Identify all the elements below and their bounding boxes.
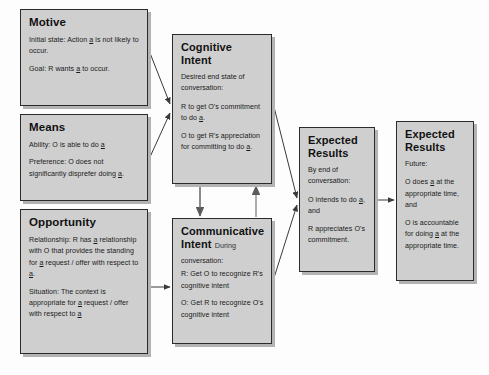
node-expected-results-future-line-2: O is accountable for doing a at the appr… <box>405 218 466 252</box>
node-opportunity-line-2: Situation: The context is appropriate fo… <box>29 287 140 321</box>
node-cognitive-intent-lead: Desired end state of conversation: <box>181 72 264 95</box>
diagram-canvas: Motive Initial state: Action a is not li… <box>0 0 489 375</box>
node-expected-results-conversation-line-1: O intends to do a, and <box>308 195 367 218</box>
node-means-title: Means <box>29 121 140 135</box>
node-motive-title: Motive <box>29 16 140 30</box>
node-opportunity[interactable]: Opportunity Relationship: R has a relati… <box>20 209 148 354</box>
arrow-cognitive-intent-to-expected-results <box>273 103 297 198</box>
node-expected-results-conversation[interactable]: Expected Results By end of conversation:… <box>299 127 375 272</box>
node-communicative-intent-title-note: During <box>215 241 236 250</box>
node-expected-results-conversation-line-2: R appreciates O's commitment. <box>308 224 367 247</box>
node-opportunity-title: Opportunity <box>29 216 140 230</box>
node-expected-results-future-lead: Future: <box>405 159 466 170</box>
node-communicative-intent-line-1: R: Get O to recognize R's cognitive inte… <box>181 269 264 292</box>
arrow-communicative-intent-to-expected-results <box>273 205 297 281</box>
node-cognitive-intent-line-2: O to get R's appreciation for committing… <box>181 131 264 154</box>
node-motive[interactable]: Motive Initial state: Action a is not li… <box>20 9 148 106</box>
node-expected-results-future[interactable]: Expected Results Future: O does a at the… <box>396 121 474 281</box>
node-communicative-intent[interactable]: Communicative Intent During conversation… <box>172 218 272 344</box>
node-means[interactable]: Means Ability: O is able to do a Prefere… <box>20 114 148 201</box>
node-communicative-intent-line-2: O: Get R to recognize O's cognitive inte… <box>181 298 264 321</box>
node-motive-line-1: Initial state: Action a is not likely to… <box>29 35 140 58</box>
node-means-line-2: Preference: O does not significantly dis… <box>29 157 140 180</box>
node-cognitive-intent-line-1: R to get O's commitment to do a. <box>181 102 264 125</box>
node-expected-results-future-line-1: O does a at the appropriate time, and <box>405 177 466 211</box>
arrow-means-to-cognitive-intent <box>150 113 170 157</box>
node-cognitive-intent-title: Cognitive Intent <box>181 41 264 67</box>
node-communicative-intent-title: Communicative Intent During <box>181 225 264 251</box>
arrow-motive-to-cognitive-intent <box>150 53 170 104</box>
node-means-line-1: Ability: O is able to do a <box>29 140 140 151</box>
node-motive-line-2: Goal: R wants a to occur. <box>29 64 140 75</box>
node-opportunity-line-1: Relationship: R has a relationship with … <box>29 235 140 281</box>
node-expected-results-conversation-title: Expected Results <box>308 134 367 160</box>
node-expected-results-conversation-lead: By end of conversation: <box>308 165 367 188</box>
node-cognitive-intent[interactable]: Cognitive Intent Desired end state of co… <box>172 34 272 184</box>
node-expected-results-future-title: Expected Results <box>405 128 466 154</box>
node-communicative-intent-lead: conversation: <box>181 256 264 267</box>
